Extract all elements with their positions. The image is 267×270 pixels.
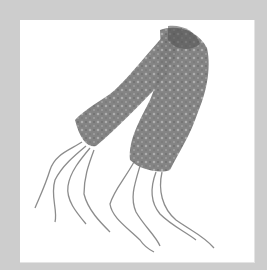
fringe-right — [110, 162, 214, 252]
fringe-left — [35, 142, 110, 232]
crochet-scarf-image — [0, 0, 267, 270]
